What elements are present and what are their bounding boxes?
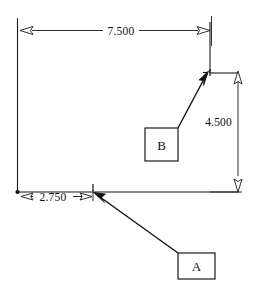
arrow-down-inward [234,179,242,192]
dimension-label-height: 4.500 [205,116,232,128]
callout-a-group[interactable]: A [94,193,216,280]
leader-line-b [178,79,204,128]
arrow-offset-right [80,193,92,200]
node-dot-bottom-left [15,190,19,194]
arrow-right-outward [197,27,210,35]
callout-label-b: B [157,138,166,153]
leader-arrowhead-a [94,193,106,203]
arrow-left-outward [20,27,33,35]
callout-b-group[interactable]: B [145,71,209,161]
dimension-label-offset: 2.750 [40,191,67,203]
dimension-label-width: 7.500 [108,25,135,37]
arrow-offset-left [21,193,33,200]
dimension-width-overall[interactable]: 7.500 [18,16,212,46]
dimension-height-right[interactable]: 4.500 [205,71,242,192]
callout-label-a: A [192,259,202,274]
profile-geometry [18,22,240,192]
technical-drawing-canvas: 7.500 4.500 2.750 [0,0,266,292]
leader-arrowhead-b [199,71,209,86]
leader-line-a [100,197,178,253]
node-markers [15,69,210,194]
